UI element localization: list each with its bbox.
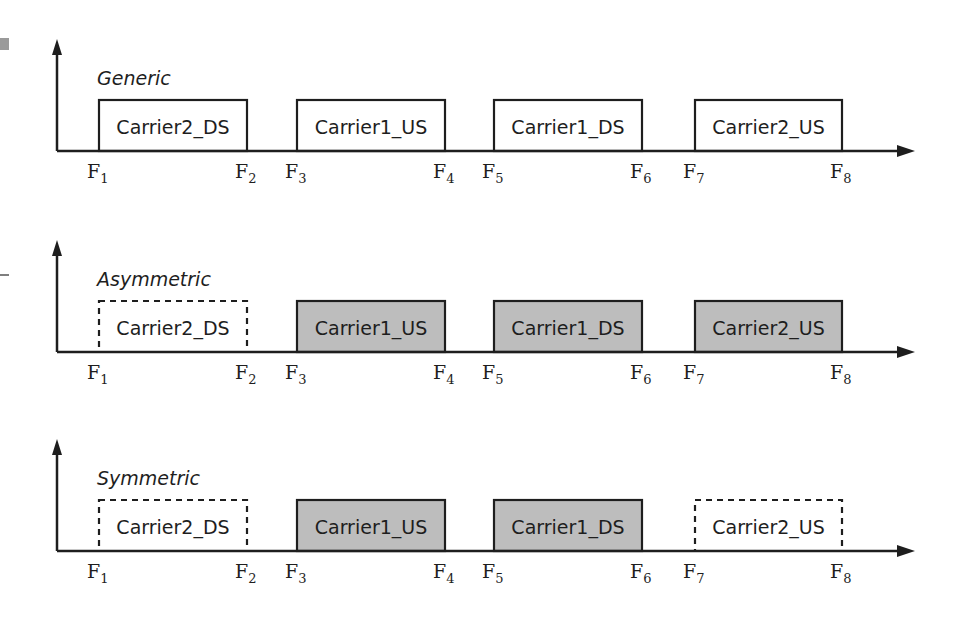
frequency-label: F4 [433, 361, 454, 387]
carrier-label: Carrier1_US [315, 116, 428, 139]
frequency-label: F4 [433, 160, 454, 186]
panel-title: Asymmetric [95, 268, 211, 290]
carrier-label: Carrier2_DS [116, 116, 229, 139]
frequency-label: F6 [630, 160, 651, 186]
x-axis-arrow-icon [897, 145, 915, 157]
frequency-label: F4 [433, 560, 454, 586]
frequency-label: F5 [482, 160, 503, 186]
y-axis-arrow-icon [52, 39, 62, 55]
carrier-label: Carrier1_US [315, 516, 428, 539]
frequency-label: F7 [683, 560, 704, 586]
frequency-label: F7 [683, 361, 704, 387]
panel-title: Generic [97, 67, 171, 89]
frequency-label: F8 [830, 160, 851, 186]
carrier-label: Carrier1_DS [511, 516, 624, 539]
carrier-label: Carrier1_US [315, 317, 428, 340]
frequency-label: F5 [482, 361, 503, 387]
frequency-label: F2 [235, 361, 256, 387]
panel-symmetric: Carrier2_DSCarrier1_USCarrier1_DSCarrier… [52, 439, 915, 586]
carrier-label: Carrier2_US [712, 516, 825, 539]
carrier-label: Carrier2_US [712, 317, 825, 340]
panel-title: Symmetric [97, 467, 201, 489]
frequency-label: F1 [87, 560, 108, 586]
carrier-label: Carrier1_DS [511, 116, 624, 139]
frequency-label: F1 [87, 361, 108, 387]
carrier-label: Carrier2_US [712, 116, 825, 139]
carrier-label: Carrier2_DS [116, 516, 229, 539]
frequency-allocation-diagram: Carrier2_DSCarrier1_USCarrier1_DSCarrier… [0, 0, 959, 625]
y-axis-arrow-icon [52, 240, 62, 256]
frequency-label: F1 [87, 160, 108, 186]
x-axis-arrow-icon [897, 346, 915, 358]
carrier-label: Carrier2_DS [116, 317, 229, 340]
frequency-label: F2 [235, 160, 256, 186]
y-axis-arrow-icon [52, 439, 62, 455]
carrier-label: Carrier1_DS [511, 317, 624, 340]
frequency-label: F6 [630, 560, 651, 586]
frequency-label: F8 [830, 361, 851, 387]
x-axis-arrow-icon [897, 545, 915, 557]
frequency-label: F3 [285, 361, 306, 387]
frequency-label: F2 [235, 560, 256, 586]
frequency-label: F3 [285, 160, 306, 186]
margin-marker [0, 38, 9, 50]
frequency-label: F6 [630, 361, 651, 387]
frequency-label: F8 [830, 560, 851, 586]
panel-asymmetric: Carrier2_DSCarrier1_USCarrier1_DSCarrier… [52, 240, 915, 387]
frequency-label: F7 [683, 160, 704, 186]
panel-generic: Carrier2_DSCarrier1_USCarrier1_DSCarrier… [52, 39, 915, 186]
frequency-label: F5 [482, 560, 503, 586]
frequency-label: F3 [285, 560, 306, 586]
